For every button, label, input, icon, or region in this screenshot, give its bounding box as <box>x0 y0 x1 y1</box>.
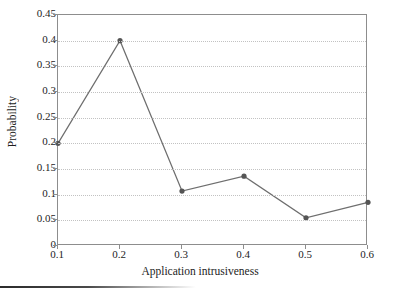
data-point <box>365 200 370 205</box>
y-tick-label: 0.3 <box>16 85 56 96</box>
data-point <box>179 188 184 193</box>
y-tick-label: 0.45 <box>16 8 56 19</box>
y-tick-mark <box>53 91 57 92</box>
gridline-y <box>58 118 366 119</box>
x-tick-label: 0.4 <box>223 249 263 260</box>
y-tick-label: 0.4 <box>16 34 56 45</box>
x-tick-mark <box>181 245 182 249</box>
y-tick-mark <box>53 14 57 15</box>
y-tick-label: 0.2 <box>16 136 56 147</box>
y-tick-label: 0.35 <box>16 59 56 70</box>
y-tick-mark <box>53 168 57 169</box>
y-tick-mark <box>53 40 57 41</box>
x-tick-label: 0.5 <box>285 249 325 260</box>
gridline-y <box>58 41 366 42</box>
y-tick-mark <box>53 117 57 118</box>
x-tick-label: 0.2 <box>99 249 139 260</box>
y-tick-mark <box>53 194 57 195</box>
chart-page: 00.050.10.150.20.250.30.350.40.45 0.10.2… <box>0 0 400 294</box>
x-tick-mark <box>243 245 244 249</box>
y-tick-label: 0.1 <box>16 188 56 199</box>
series-line-probability <box>58 15 368 246</box>
plot-area <box>57 14 367 245</box>
data-point <box>241 174 246 179</box>
y-axis-title: Probability <box>6 96 18 147</box>
gridline-y <box>58 220 366 221</box>
x-tick-mark <box>367 245 368 249</box>
y-tick-label: 0.25 <box>16 111 56 122</box>
x-tick-mark <box>57 245 58 249</box>
y-tick-mark <box>53 219 57 220</box>
x-axis-title: Application intrusiveness <box>0 265 400 277</box>
y-tick-mark <box>53 142 57 143</box>
y-tick-label: 0.05 <box>16 213 56 224</box>
x-tick-label: 0.1 <box>37 249 77 260</box>
gridline-y <box>58 169 366 170</box>
gridline-y <box>58 92 366 93</box>
gridline-y <box>58 143 366 144</box>
y-tick-mark <box>53 65 57 66</box>
x-tick-mark <box>119 245 120 249</box>
gridline-y <box>58 195 366 196</box>
page-edge-rule <box>0 286 196 288</box>
gridline-y <box>58 66 366 67</box>
x-tick-mark <box>305 245 306 249</box>
y-tick-label: 0.15 <box>16 162 56 173</box>
x-tick-label: 0.6 <box>347 249 387 260</box>
x-tick-label: 0.3 <box>161 249 201 260</box>
